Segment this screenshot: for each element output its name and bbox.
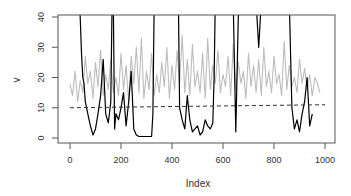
line-chart: 010203040 02004006008001000 v Index xyxy=(0,0,351,196)
x-tick-label: 0 xyxy=(67,155,72,165)
x-tick-label: 200 xyxy=(113,155,128,165)
y-tick-label: 0 xyxy=(36,135,46,140)
x-tick-label: 800 xyxy=(266,155,281,165)
y-axis-title: v xyxy=(11,78,22,83)
y-tick-label: 30 xyxy=(36,42,46,52)
x-axis-title: Index xyxy=(186,178,210,189)
x-tick-label: 400 xyxy=(164,155,179,165)
y-tick-label: 20 xyxy=(36,72,46,82)
x-tick-label: 1000 xyxy=(315,155,335,165)
reference-dashed-line xyxy=(70,105,325,108)
series-layer xyxy=(70,2,320,137)
black-series-line xyxy=(79,2,312,137)
x-tick-label: 600 xyxy=(215,155,230,165)
gray-series-line xyxy=(70,35,320,102)
y-axis: 010203040 xyxy=(36,12,58,141)
x-axis: 02004006008001000 xyxy=(67,143,335,165)
y-tick-label: 40 xyxy=(36,12,46,22)
y-tick-label: 10 xyxy=(36,103,46,113)
